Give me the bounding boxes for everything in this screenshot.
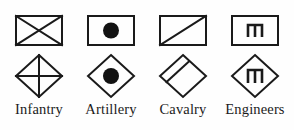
diagonal-diamond-icon <box>158 53 208 99</box>
diamond-symbol-slot-infantry <box>14 48 64 98</box>
diamond-symbol-slot-artillery <box>86 48 136 98</box>
legend-column-cavalry: Cavalry <box>148 0 218 120</box>
diamond-symbol-slot-engineers <box>230 48 280 98</box>
crossed-rectangle-icon <box>15 15 63 46</box>
bridge-glyph-rectangle-icon <box>231 15 279 46</box>
rect-symbol-slot-artillery <box>87 0 135 48</box>
legend-column-artillery: Artillery <box>76 0 146 120</box>
label-slot-artillery: Artillery <box>85 98 136 120</box>
unit-label-infantry: Infantry <box>15 101 63 117</box>
rect-symbol-slot-infantry <box>15 0 63 48</box>
label-slot-engineers: Engineers <box>225 98 284 120</box>
legend-column-infantry: Infantry <box>4 0 74 120</box>
symbol-legend-figure: Infantry Artillery <box>0 0 294 130</box>
unit-label-artillery: Artillery <box>85 101 136 117</box>
diagonal-rectangle-icon <box>159 15 207 46</box>
label-slot-cavalry: Cavalry <box>160 98 207 120</box>
unit-label-engineers: Engineers <box>225 101 284 117</box>
dot-diamond-icon <box>86 53 136 99</box>
diamond-symbol-slot-cavalry <box>158 48 208 98</box>
legend-column-engineers: Engineers <box>220 0 290 120</box>
legend-columns: Infantry Artillery <box>0 0 294 130</box>
dot-rectangle-icon <box>87 15 135 46</box>
label-slot-infantry: Infantry <box>15 98 63 120</box>
bridge-glyph-diamond-icon <box>230 53 280 99</box>
rect-symbol-slot-engineers <box>231 0 279 48</box>
crossed-diamond-icon <box>14 53 64 99</box>
rect-symbol-slot-cavalry <box>159 0 207 48</box>
unit-label-cavalry: Cavalry <box>160 101 207 117</box>
